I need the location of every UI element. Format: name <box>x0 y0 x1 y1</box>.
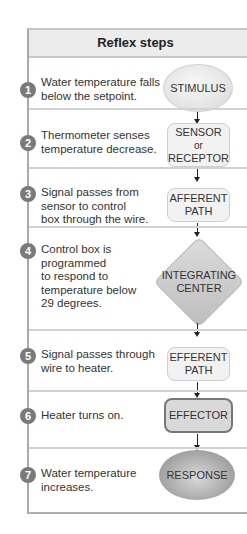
arrow-down-icon <box>197 168 198 178</box>
shape-label: RESPONSE <box>166 469 227 482</box>
shape-label: SENSOR <box>168 126 229 139</box>
step-description: Water temperature increases. <box>41 467 161 494</box>
desc-line: Signal passes through <box>41 348 161 362</box>
desc-line: programmed <box>41 257 161 271</box>
sensor-receptor-box: SENSOR or RECEPTOR <box>167 123 230 167</box>
step-number-badge: 5 <box>20 348 36 364</box>
shape-label: RECEPTOR <box>168 152 229 165</box>
arrow-down-icon <box>197 112 198 120</box>
desc-line: Signal passes from <box>41 186 161 200</box>
step-number-badge: 2 <box>20 135 36 151</box>
desc-line: box through the wire. <box>41 213 161 227</box>
desc-line: temperature decrease. <box>41 143 161 157</box>
desc-line: Thermometer senses <box>41 129 161 143</box>
afferent-path-box: AFFERENT PATH <box>167 188 230 222</box>
arrow-down-icon <box>197 434 198 446</box>
arrow-down-icon <box>197 223 198 233</box>
response-ellipse: RESPONSE <box>159 450 235 500</box>
stimulus-ellipse: STIMULUS <box>163 64 233 112</box>
row-divider <box>29 390 247 392</box>
arrow-down-icon <box>197 323 198 333</box>
step-number-badge: 1 <box>20 82 36 98</box>
desc-line: sensor to control <box>41 200 161 214</box>
panel-header: Reflex steps <box>29 30 247 58</box>
step-description: Water temperature falls below the setpoi… <box>41 76 161 103</box>
step-description: Control box is programmed to respond to … <box>41 243 161 311</box>
desc-line: to respond to <box>41 270 161 284</box>
row-divider <box>29 108 247 110</box>
step-number-badge: 3 <box>20 186 36 202</box>
step-description: Signal passes from sensor to control box… <box>41 186 161 227</box>
shape-label: EFFECTOR <box>169 409 228 422</box>
panel-title: Reflex steps <box>29 35 247 50</box>
integrating-center-label: INTEGRATING CENTER <box>159 264 239 300</box>
shape-label: INTEGRATING <box>162 269 236 282</box>
shape-label: or <box>168 139 229 152</box>
row-divider <box>29 447 247 449</box>
step-description: Heater turns on. <box>41 409 161 423</box>
shape-label: AFFERENT <box>169 192 227 205</box>
shape-label: PATH <box>169 364 227 377</box>
desc-line: temperature below <box>41 284 161 298</box>
step-number-badge: 6 <box>20 408 36 424</box>
shape-label: STIMULUS <box>170 82 226 95</box>
row-divider <box>29 167 247 169</box>
shape-label: EFFERENT <box>169 351 227 364</box>
desc-line: below the setpoint. <box>41 90 161 104</box>
step-description: Thermometer senses temperature decrease. <box>41 129 161 156</box>
row-divider <box>29 226 247 228</box>
effector-box: EFFECTOR <box>164 398 233 433</box>
desc-line: 29 degrees. <box>41 297 161 311</box>
step-number-badge: 4 <box>20 243 36 259</box>
desc-line: Water temperature <box>41 467 161 481</box>
desc-line: Heater turns on. <box>41 409 161 423</box>
arrow-down-icon <box>197 382 198 394</box>
desc-line: increases. <box>41 481 161 495</box>
step-description: Signal passes through wire to heater. <box>41 348 161 375</box>
step-number-badge: 7 <box>20 467 36 483</box>
shape-label: PATH <box>169 205 227 218</box>
efferent-path-box: EFFERENT PATH <box>167 347 230 381</box>
shape-label: CENTER <box>162 282 236 295</box>
reflex-steps-panel: Reflex steps 1 Water temperature falls b… <box>27 28 247 514</box>
desc-line: wire to heater. <box>41 362 161 376</box>
desc-line: Water temperature falls <box>41 76 161 90</box>
row-divider <box>29 329 247 331</box>
desc-line: Control box is <box>41 243 161 257</box>
